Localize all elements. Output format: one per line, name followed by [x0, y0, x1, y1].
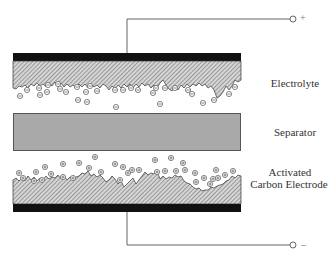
separator [14, 114, 241, 151]
negative-terminal-label: – [301, 240, 306, 250]
positive-terminal-icon [290, 16, 296, 22]
top-current-collector [13, 53, 241, 61]
bottom-carbon-electrode [13, 171, 241, 204]
positive-lead-wire [127, 16, 296, 53]
electrode-label-line2: Carbon Electrode [246, 178, 332, 190]
electrolyte-label: Electrolyte [260, 77, 330, 89]
positive-terminal-label: + [300, 13, 306, 23]
negative-terminal-icon [290, 242, 296, 248]
separator-label: Separator [260, 126, 330, 138]
negative-lead-wire [127, 212, 296, 248]
electrode-label-line1: Activated [250, 166, 330, 178]
bottom-current-collector [13, 204, 241, 212]
supercapacitor-diagram: + – Electrolyte Separator Activated Carb… [0, 0, 333, 259]
